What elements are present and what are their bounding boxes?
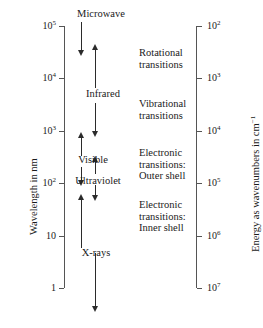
right-axis-tick (197, 78, 202, 79)
microwave-arrow-shaft (81, 22, 82, 52)
transition-label-vibrational: Vibrational transitions (139, 98, 186, 121)
infrared-arrow-shaft-upper (95, 48, 96, 88)
left-axis-tick-label: 103 (18, 126, 56, 136)
infrared-arrow-head-up (92, 44, 98, 50)
transition-line-1: Rotational (139, 47, 183, 59)
transition-line-1: Electronic (139, 199, 186, 211)
band-label-ultraviolet: Ultraviolet (59, 175, 137, 186)
transition-line-2: transitions: (139, 159, 186, 171)
transition-line-3: Inner shell (139, 222, 186, 234)
transition-label-electronic-outer: Electronic transitions: Outer shell (139, 147, 186, 182)
spectrum-chart: 105 104 103 102 10 1 Wavelength in nm 10… (0, 0, 263, 328)
band-label-visible: Visible (62, 154, 124, 165)
xrays-open-arrow-head-down (92, 306, 98, 312)
left-axis-tick (59, 131, 64, 132)
transition-line-2: transitions (139, 110, 186, 122)
left-axis-tick (59, 26, 64, 27)
right-axis-tick-label: 103 (207, 73, 247, 83)
visible-arrow-head-up (78, 132, 84, 138)
infrared-arrow-head-down (92, 131, 98, 137)
transition-line-2: transitions (139, 59, 183, 71)
right-axis-tick (197, 131, 202, 132)
right-axis-spine (196, 26, 197, 288)
right-axis-tick (197, 26, 202, 27)
right-axis-tick-label: 104 (207, 126, 247, 136)
right-axis-tick-label: 105 (207, 178, 247, 188)
transition-line-3: Outer shell (139, 170, 186, 182)
left-axis-title: Wavelength in nm (28, 158, 39, 235)
right-axis-tick (197, 183, 202, 184)
transition-label-electronic-inner: Electronic transitions: Inner shell (139, 199, 186, 234)
xrays-arrow-head-up (78, 194, 84, 200)
transition-line-2: transitions: (139, 211, 186, 223)
infrared-arrow-shaft-lower (95, 103, 96, 133)
left-axis-tick-label: 105 (18, 21, 56, 31)
left-axis-tick-label: 1 (18, 283, 56, 293)
right-axis-title: Energy as wavenumbers in cm−1 (250, 116, 261, 252)
band-label-microwave: Microwave (56, 8, 146, 19)
band-label-xrays: X-rays (66, 247, 126, 258)
microwave-arrow-head-down (78, 50, 84, 56)
xrays-arrow-shaft (81, 198, 82, 248)
ultraviolet-arrow-head-down (92, 195, 98, 201)
right-axis-tick-label: 102 (207, 21, 247, 31)
right-axis-tick-label: 106 (207, 231, 247, 241)
right-axis-tick-label: 107 (207, 283, 247, 293)
left-axis-tick (59, 78, 64, 79)
left-axis-tick (59, 288, 64, 289)
band-label-infrared: Infrared (68, 88, 138, 99)
transition-line-1: Vibrational (139, 98, 186, 110)
left-axis-tick (59, 236, 64, 237)
visible-arrow-shaft-upper (81, 136, 82, 156)
transition-label-rotational: Rotational transitions (139, 47, 183, 70)
right-axis-tick (197, 288, 202, 289)
transition-line-1: Electronic (139, 147, 186, 159)
left-axis-tick-label: 104 (18, 73, 56, 83)
xrays-open-arrow-shaft (95, 253, 96, 308)
right-axis-tick (197, 236, 202, 237)
